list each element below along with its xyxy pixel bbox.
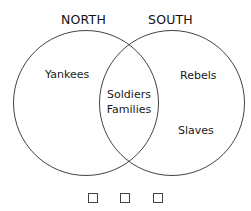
rebels-label: Rebels	[180, 69, 216, 82]
soldiers-label: Soldiers	[104, 87, 154, 102]
north-title: NORTH	[61, 12, 106, 27]
answer-checkbox-1[interactable]	[88, 193, 98, 203]
overlap-labels: Soldiers Families	[104, 87, 154, 117]
south-title: SOUTH	[148, 12, 193, 27]
answer-checkbox-3[interactable]	[153, 193, 163, 203]
answer-checkbox-2[interactable]	[120, 193, 130, 203]
families-label: Families	[104, 102, 154, 117]
yankees-label: Yankees	[45, 68, 89, 81]
slaves-label: Slaves	[178, 124, 214, 137]
